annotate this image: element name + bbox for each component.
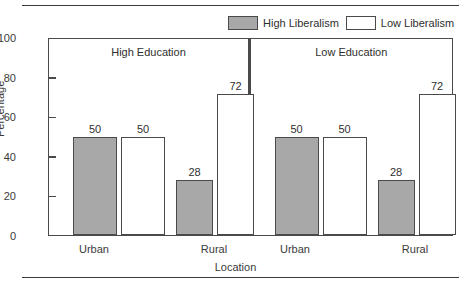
bar-label-high-education-urban-high-liberalism: 50 <box>89 123 101 135</box>
bar-high-education-rural-high-liberalism[interactable] <box>176 180 213 235</box>
top-divider-rule <box>22 5 459 6</box>
bar-label-low-education-rural-high-liberalism: 28 <box>390 166 402 178</box>
bar-low-education-rural-low-liberalism[interactable] <box>419 94 456 235</box>
bar-high-education-urban-high-liberalism[interactable] <box>73 137 117 235</box>
bars-low-education: 50 50 28 72 <box>251 39 453 235</box>
bar-chart-figure: High Liberalism Low Liberalism 100 80 60… <box>0 0 471 286</box>
y-tick-label-0: 0 <box>0 230 16 242</box>
bar-label-high-education-rural-high-liberalism: 28 <box>188 166 200 178</box>
panel-high-education: High Education 50 50 28 72 <box>49 39 248 235</box>
bar-label-low-education-rural-low-liberalism: 72 <box>431 80 443 92</box>
legend-item-low-liberalism: Low Liberalism <box>346 16 454 30</box>
bar-low-education-urban-low-liberalism[interactable] <box>323 137 367 235</box>
y-axis-label: Percentage <box>0 81 6 137</box>
x-tick-label-high-education-rural: Rural <box>201 243 227 255</box>
bar-high-education-rural-low-liberalism[interactable] <box>217 94 254 235</box>
bar-low-education-urban-high-liberalism[interactable] <box>275 137 319 235</box>
bar-label-low-education-urban-high-liberalism: 50 <box>290 123 302 135</box>
x-tick-label-low-education-rural: Rural <box>402 243 428 255</box>
bars-high-education: 50 50 28 72 <box>49 39 248 235</box>
x-tick-label-low-education-urban: Urban <box>280 243 310 255</box>
chart-legend: High Liberalism Low Liberalism <box>228 14 454 32</box>
legend-item-high-liberalism: High Liberalism <box>228 16 339 30</box>
legend-label-high-liberalism: High Liberalism <box>263 17 339 29</box>
y-tick-label-40: 40 <box>0 151 16 163</box>
bar-high-education-urban-low-liberalism[interactable] <box>121 137 165 235</box>
legend-swatch-low-liberalism <box>346 16 376 30</box>
x-tick-label-high-education-urban: Urban <box>79 243 109 255</box>
y-tick-label-100: 100 <box>0 32 16 44</box>
plot-area: High Education 50 50 28 72 Low Education… <box>48 38 453 236</box>
legend-label-low-liberalism: Low Liberalism <box>381 17 454 29</box>
bar-label-low-education-urban-low-liberalism: 50 <box>338 123 350 135</box>
bottom-divider-rule <box>22 277 459 278</box>
legend-swatch-high-liberalism <box>228 16 258 30</box>
bar-low-education-rural-high-liberalism[interactable] <box>378 180 415 235</box>
panel-low-education: Low Education 50 50 28 72 <box>251 39 453 235</box>
bar-label-high-education-rural-low-liberalism: 72 <box>229 80 241 92</box>
y-tick-label-20: 20 <box>0 190 16 202</box>
x-axis-label: Location <box>0 261 471 273</box>
bar-label-high-education-urban-low-liberalism: 50 <box>137 123 149 135</box>
